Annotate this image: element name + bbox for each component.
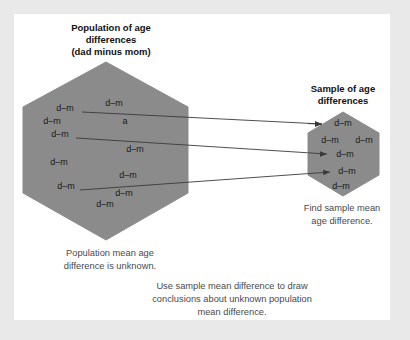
population-hexagon: [23, 62, 188, 240]
sample-item: d–m: [338, 166, 356, 176]
sample-heading-line1: Sample of age: [311, 83, 375, 94]
population-item: d–m: [50, 157, 68, 167]
conclusion-line2: conclusions about unknown population: [152, 294, 312, 304]
population-item: d–m: [43, 116, 61, 126]
population-item: d–m: [115, 188, 133, 198]
population-item: d–m: [51, 129, 69, 139]
sample-caption-line2: age difference.: [311, 216, 372, 226]
sample-item: d–m: [332, 181, 350, 191]
population-item: a: [122, 116, 127, 126]
figure-stage: Population of age differences (dad minus…: [0, 0, 410, 340]
sample-item: d–m: [321, 135, 339, 145]
conclusion-line3: mean difference.: [197, 307, 266, 317]
sample-item: d–m: [355, 135, 373, 145]
population-item: d–m: [119, 170, 137, 180]
population-item: d–m: [57, 181, 75, 191]
sample-caption-line1: Find sample mean: [304, 203, 380, 213]
population-heading-line3: (dad minus mom): [71, 46, 150, 57]
statistics-diagram: Population of age differences (dad minus…: [0, 0, 410, 340]
population-item: d–m: [96, 199, 114, 209]
population-item: d–m: [126, 144, 144, 154]
population-caption-line1: Population mean age: [66, 248, 154, 258]
population-heading-line2: differences: [86, 34, 137, 45]
conclusion-line1: Use sample mean difference to draw: [156, 281, 308, 291]
population-caption-line2: difference is unknown.: [64, 261, 156, 271]
sample-heading-line2: differences: [318, 95, 369, 106]
sample-item: d–m: [336, 149, 354, 159]
population-heading-line1: Population of age: [71, 22, 151, 33]
sample-item: d–m: [334, 118, 352, 128]
population-item: d–m: [105, 98, 123, 108]
population-item: d–m: [56, 103, 74, 113]
